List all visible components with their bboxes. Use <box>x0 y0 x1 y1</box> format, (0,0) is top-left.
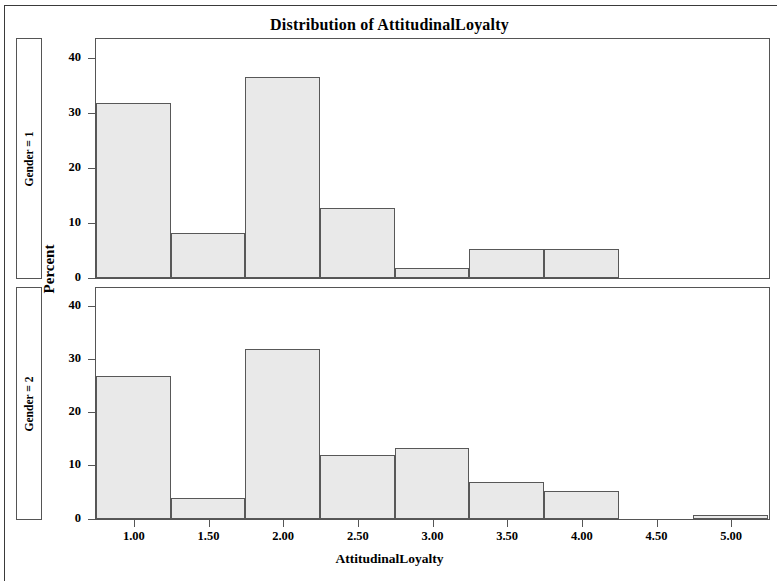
x-axis-tick <box>582 520 583 527</box>
x-axis-tick-label: 1.00 <box>112 529 156 544</box>
x-axis-tick <box>507 520 508 527</box>
panel-strip-label-gender-2: Gender = 2 <box>16 287 42 520</box>
y-axis-tick-label: 40 <box>55 298 81 313</box>
x-axis-tick-label: 3.00 <box>411 529 455 544</box>
histogram-bar <box>395 268 470 278</box>
y-axis-tick-label: 10 <box>55 215 81 230</box>
histogram-bar <box>320 455 395 519</box>
x-axis-tick <box>283 520 284 527</box>
bars-gender-2 <box>96 288 769 519</box>
x-axis-tick <box>134 520 135 527</box>
bars-gender-1 <box>96 39 769 278</box>
y-axis-tick <box>88 223 95 224</box>
histogram-bar <box>469 249 544 278</box>
histogram-bar <box>395 448 470 519</box>
x-axis-tick <box>209 520 210 527</box>
x-axis-tick <box>731 520 732 527</box>
y-axis-tick-label: 30 <box>55 351 81 366</box>
plot-panel-gender-2 <box>95 287 770 520</box>
panel-strip-label-gender-1-text: Gender = 1 <box>23 131 35 186</box>
y-axis-tick <box>88 306 95 307</box>
x-axis-tick-label: 1.50 <box>187 529 231 544</box>
chart-title: Distribution of AttitudinalLoyalty <box>0 16 779 34</box>
histogram-bar <box>320 208 395 278</box>
histogram-bar <box>171 233 246 278</box>
histogram-figure: Distribution of AttitudinalLoyalty Perce… <box>0 0 779 584</box>
y-axis-tick-label: 0 <box>55 511 81 526</box>
y-axis-tick-label: 20 <box>55 160 81 175</box>
y-axis-tick-label: 20 <box>55 404 81 419</box>
histogram-bar <box>245 349 320 520</box>
y-axis-tick <box>88 359 95 360</box>
histogram-bar <box>469 482 544 519</box>
y-axis-tick <box>88 465 95 466</box>
histogram-bar <box>96 103 171 278</box>
y-axis-tick <box>88 412 95 413</box>
histogram-bar <box>171 498 246 519</box>
x-axis-tick-label: 3.50 <box>485 529 529 544</box>
histogram-bar <box>96 376 171 519</box>
y-axis-tick-label: 30 <box>55 105 81 120</box>
histogram-bar <box>693 515 768 519</box>
y-axis-tick <box>88 519 95 520</box>
x-axis-tick-label: 2.00 <box>261 529 305 544</box>
y-axis-tick <box>88 113 95 114</box>
panel-strip-label-gender-2-text: Gender = 2 <box>23 376 35 431</box>
y-axis-tick <box>88 168 95 169</box>
y-axis-tick <box>88 278 95 279</box>
y-axis-tick-label: 40 <box>55 50 81 65</box>
y-axis-tick-label: 10 <box>55 457 81 472</box>
plot-panel-gender-1 <box>95 38 770 279</box>
panel-strip-label-gender-1: Gender = 1 <box>16 38 42 279</box>
x-axis-tick <box>657 520 658 527</box>
x-axis-tick <box>358 520 359 527</box>
x-axis-tick-label: 4.00 <box>560 529 604 544</box>
y-axis-tick-label: 0 <box>55 270 81 285</box>
histogram-bar <box>544 491 619 519</box>
x-axis-label: AttitudinalLoyalty <box>0 551 779 567</box>
x-axis-tick-label: 4.50 <box>635 529 679 544</box>
x-axis-tick-label: 2.50 <box>336 529 380 544</box>
y-axis-tick <box>88 58 95 59</box>
histogram-bar <box>544 249 619 278</box>
x-axis-tick-label: 5.00 <box>709 529 753 544</box>
histogram-bar <box>245 77 320 278</box>
x-axis-tick <box>433 520 434 527</box>
